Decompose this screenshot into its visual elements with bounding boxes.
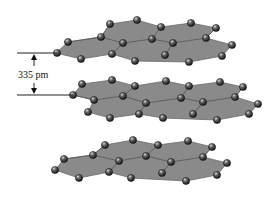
carbon-atom	[231, 93, 238, 100]
carbon-atom	[157, 23, 164, 30]
carbon-atom	[64, 38, 71, 45]
carbon-atom	[218, 52, 225, 59]
carbon-atom	[208, 143, 215, 150]
carbon-atom	[90, 96, 97, 103]
carbon-atom	[51, 166, 58, 173]
carbon-atom	[199, 98, 206, 105]
carbon-atom	[119, 92, 126, 99]
carbon-atom	[75, 174, 82, 181]
carbon-atom	[228, 41, 235, 48]
carbon-atom	[142, 152, 149, 159]
carbon-atom	[119, 39, 126, 46]
carbon-atom	[161, 51, 168, 58]
carbon-atom	[216, 78, 223, 85]
graphene-sheet-bottom	[51, 136, 230, 184]
carbon-atom	[127, 174, 134, 181]
carbon-atom	[60, 155, 67, 162]
carbon-atom	[135, 110, 142, 117]
carbon-atom	[106, 20, 113, 27]
carbon-atom	[184, 137, 191, 144]
carbon-atom	[148, 35, 155, 42]
carbon-atom	[78, 80, 85, 87]
carbon-atom	[108, 76, 115, 83]
carbon-atom	[106, 114, 113, 121]
carbon-atom	[182, 177, 189, 184]
carbon-atom	[189, 110, 196, 117]
graphite-layers-diagram: 335 pm	[0, 0, 278, 198]
carbon-atom	[169, 39, 176, 46]
carbon-atom	[167, 158, 174, 165]
carbon-atom	[108, 50, 115, 57]
carbon-atom	[185, 82, 192, 89]
carbon-atom	[199, 153, 206, 160]
carbon-atom	[177, 94, 184, 101]
carbon-atom	[223, 159, 230, 166]
carbon-atom	[133, 16, 140, 23]
carbon-atom	[84, 108, 91, 115]
carbon-atom	[129, 136, 136, 143]
spacing-label: 335 pm	[18, 69, 49, 80]
carbon-atom	[185, 58, 192, 65]
carbon-atom	[131, 57, 138, 64]
carbon-atom	[158, 169, 165, 176]
carbon-atom	[254, 100, 261, 107]
carbon-atom	[239, 83, 246, 90]
carbon-atom	[77, 55, 84, 62]
carbon-atom	[187, 19, 194, 26]
spacing-annotation: 335 pm	[17, 53, 73, 95]
carbon-atom	[202, 34, 209, 41]
carbon-atom	[212, 24, 219, 31]
graphene-sheet-middle	[69, 76, 261, 123]
graphene-sheets	[51, 16, 261, 184]
carbon-atom	[142, 99, 149, 106]
carbon-atom	[213, 171, 220, 178]
carbon-atom	[89, 151, 96, 158]
carbon-atom	[154, 141, 161, 148]
carbon-atom	[245, 110, 252, 117]
carbon-atom	[105, 168, 112, 175]
carbon-atom	[162, 77, 169, 84]
carbon-atom	[101, 141, 108, 148]
carbon-atom	[131, 82, 138, 89]
carbon-atom	[115, 157, 122, 164]
carbon-atom	[213, 116, 220, 123]
carbon-atom	[159, 114, 166, 121]
carbon-atom	[97, 33, 104, 40]
graphene-sheet-top	[53, 16, 235, 65]
